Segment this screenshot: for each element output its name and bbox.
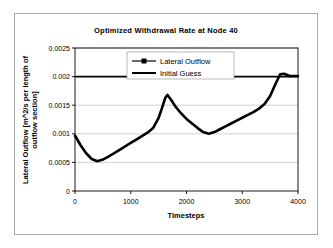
- series-line-lateral-outflow: [75, 74, 298, 162]
- x-axis-ticks: 01000200030004000: [73, 191, 306, 205]
- legend-marker-lateral-outflow: [142, 59, 147, 64]
- x-axis-title: Timesteps: [168, 211, 205, 220]
- y-axis-title-line2: outflow section]: [30, 91, 39, 149]
- y-axis-title: Lateral Outflow [m^2/s per length of: [21, 55, 30, 184]
- y-tick-label: 0.0025: [49, 45, 71, 52]
- y-tick-label: 0.001: [52, 130, 70, 137]
- series-group: [75, 74, 298, 162]
- chart-plot: 00.00050.0010.00150.0020.0025 0100020003…: [15, 14, 319, 236]
- y-tick-label: 0.0005: [49, 159, 71, 166]
- x-tick-label: 0: [73, 198, 77, 205]
- y-tick-label: 0: [66, 188, 70, 195]
- chart-legend: Lateral Outflow Initial Guess: [127, 52, 234, 79]
- x-tick-label: 1000: [123, 198, 139, 205]
- y-axis-ticks: 00.00050.0010.00150.0020.0025: [49, 45, 75, 195]
- y-tick-label: 0.002: [52, 73, 70, 80]
- legend-label-lateral-outflow: Lateral Outflow: [160, 57, 211, 66]
- x-tick-label: 2000: [179, 198, 195, 205]
- chart-frame: Optimized Withdrawal Rate at Node 40 00.…: [14, 13, 318, 235]
- x-tick-label: 3000: [234, 198, 250, 205]
- legend-label-initial-guess: Initial Guess: [160, 69, 202, 78]
- y-tick-label: 0.0015: [49, 102, 71, 109]
- x-tick-label: 4000: [290, 198, 306, 205]
